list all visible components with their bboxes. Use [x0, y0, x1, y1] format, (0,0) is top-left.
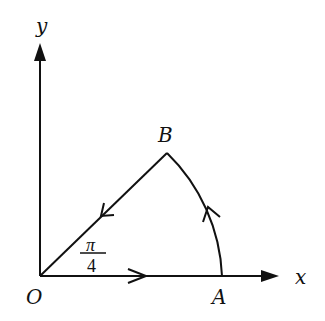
- angle-denominator: 4: [87, 256, 96, 276]
- x-axis: [40, 270, 279, 282]
- angle-numerator: π: [86, 235, 96, 255]
- point-a-label: A: [210, 285, 226, 309]
- arc-ab: [167, 153, 222, 276]
- y-axis-label: y: [35, 14, 48, 38]
- y-axis: [34, 43, 46, 276]
- point-o-label: O: [26, 285, 42, 309]
- x-axis-label: x: [295, 265, 306, 289]
- angle-label: π 4: [80, 235, 106, 276]
- contour-diagram: y x O A B π 4: [0, 0, 325, 321]
- segment-bo: [40, 153, 167, 276]
- point-b-label: B: [157, 123, 173, 147]
- y-axis-arrow-icon: [34, 43, 46, 61]
- x-axis-arrow-icon: [261, 270, 279, 282]
